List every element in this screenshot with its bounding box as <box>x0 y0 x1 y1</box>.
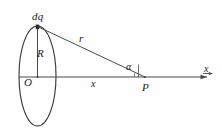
p-point-marker <box>144 76 146 78</box>
label-distance-r: r <box>79 33 83 44</box>
label-center: O <box>24 77 32 88</box>
label-angle-alpha: α <box>126 62 131 72</box>
axis-arrowhead-icon <box>201 75 208 79</box>
label-x-axis: x <box>204 64 208 74</box>
ring-charge-figure: — — — — — — — — — — — — — — — — — dq R O… <box>0 0 222 138</box>
label-axial-distance: x <box>91 79 95 89</box>
label-radius: R <box>37 48 44 59</box>
x-axis-label-arrowhead-icon <box>209 72 213 75</box>
label-charge-element: dq <box>32 11 43 22</box>
center-point-marker <box>37 76 39 78</box>
dq-point-marker <box>36 25 39 30</box>
label-field-point: P <box>142 82 149 93</box>
